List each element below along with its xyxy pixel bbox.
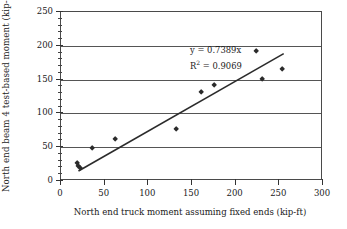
y-tick-major (56, 11, 63, 12)
plot-area (60, 11, 322, 180)
y-tick-minor (58, 160, 62, 161)
x-tick-label: 150 (176, 189, 206, 198)
y-tick-label: 100 (37, 108, 53, 117)
y-tick-label: 50 (42, 142, 53, 151)
y-axis-title: North end beam 4 test-based moment (kip-… (0, 0, 13, 181)
x-tick-major (235, 179, 236, 185)
x-tick-label: 0 (45, 189, 75, 198)
y-tick-minor (58, 38, 62, 39)
y-tick-major (56, 45, 63, 46)
y-tick-minor (58, 106, 62, 107)
y-tick-label: 250 (37, 7, 53, 16)
y-tick-minor (58, 99, 62, 100)
y-tick-major (56, 112, 63, 113)
y-tick-minor (58, 133, 62, 134)
y-tick-label: 150 (37, 75, 53, 84)
x-tick-label: 250 (263, 189, 293, 198)
y-tick-minor (58, 72, 62, 73)
r-squared-annotation: R2 = 0.9069 (190, 59, 242, 71)
y-tick-minor (58, 119, 62, 120)
y-tick-minor (58, 85, 62, 86)
x-tick-label: 50 (89, 189, 119, 198)
y-tick-label: 0 (48, 176, 53, 185)
y-tick-minor (58, 126, 62, 127)
trendline-segment (78, 54, 283, 171)
y-tick-minor (58, 25, 62, 26)
y-tick-minor (58, 92, 62, 93)
y-axis-title-label: North end beam 4 test-based moment (kip-… (1, 0, 11, 192)
scatter-chart-figure: North end beam 4 test-based moment (kip-… (0, 0, 347, 229)
x-tick-major (104, 179, 105, 185)
x-tick-label: 100 (132, 189, 162, 198)
y-tick-major (56, 79, 63, 80)
y-tick-major (56, 146, 63, 147)
x-tick-major (147, 179, 148, 185)
y-tick-minor (58, 31, 62, 32)
y-tick-minor (58, 65, 62, 66)
y-tick-minor (58, 139, 62, 140)
trendline (61, 12, 323, 181)
y-tick-minor (58, 58, 62, 59)
x-tick-label: 200 (220, 189, 250, 198)
y-tick-minor (58, 52, 62, 53)
trendline-equation-annotation: y = 0.7389x (190, 45, 241, 55)
y-tick-label: 200 (37, 41, 53, 50)
x-tick-major (322, 179, 323, 185)
x-tick-major (278, 179, 279, 185)
x-tick-major (191, 179, 192, 185)
y-tick-minor (58, 166, 62, 167)
y-tick-minor (58, 153, 62, 154)
r-squared-value: = 0.9069 (200, 61, 242, 71)
y-tick-minor (58, 18, 62, 19)
x-tick-label: 300 (307, 189, 337, 198)
y-tick-minor (58, 173, 62, 174)
x-axis-title: North end truck moment assuming fixed en… (40, 207, 340, 217)
x-tick-major (60, 179, 61, 185)
